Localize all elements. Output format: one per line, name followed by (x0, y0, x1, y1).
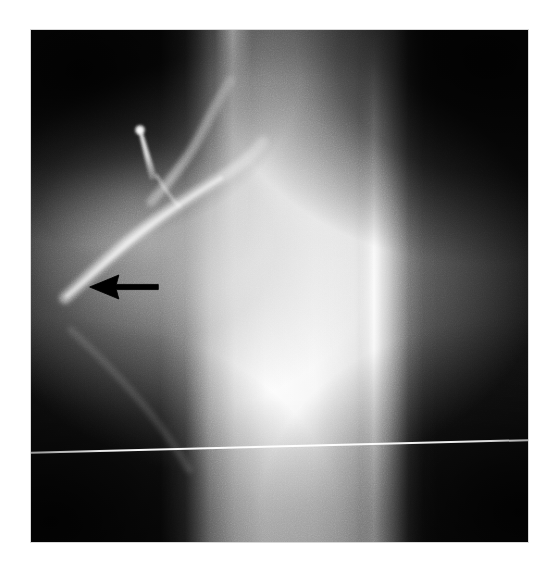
lesion-arrow-icon (88, 267, 160, 307)
radiograph-image (31, 30, 528, 542)
scan-line-artifact (31, 439, 528, 454)
figure-root (0, 0, 556, 582)
